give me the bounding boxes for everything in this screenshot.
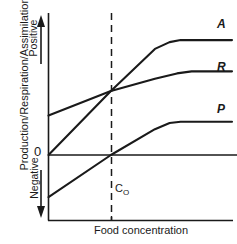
curve-label-r: R [217, 61, 226, 73]
threshold-subscript: O [123, 188, 129, 197]
y-axis-positive-label: Positive [27, 10, 39, 66]
x-axis-title: Food concentration [48, 224, 234, 236]
y-axis-zero-label: 0 [34, 145, 41, 158]
chart-figure: Production/Respiration/Assimilation Posi… [0, 0, 237, 244]
curve-label-p: P [217, 103, 225, 115]
curve-label-a: A [217, 18, 226, 30]
curve-p [49, 122, 233, 197]
threshold-base: C [115, 182, 123, 194]
threshold-annotation-label: CO [115, 183, 129, 197]
curve-r [49, 71, 233, 115]
